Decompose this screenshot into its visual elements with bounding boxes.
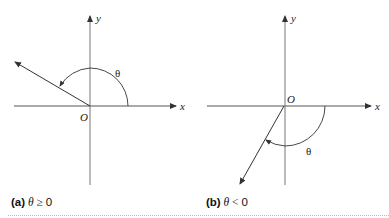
caption-expression-b: θ < 0 <box>224 196 248 208</box>
caption-value-b: 0 <box>241 196 247 208</box>
x-axis-label-a: x <box>179 100 185 112</box>
caption-tag-a: (a) <box>11 196 25 208</box>
bottom-divider <box>8 215 389 216</box>
caption-variable-b: θ <box>224 196 230 208</box>
caption-value-a: 0 <box>46 196 52 208</box>
y-axis-label-b: y <box>290 12 296 24</box>
terminal-ray-a <box>15 62 90 106</box>
origin-label-b: O <box>287 93 295 105</box>
y-axis-label-a: y <box>95 12 101 24</box>
origin-label-a: O <box>80 111 88 123</box>
angle-diagram: x y O θ x y O θ <box>0 0 389 218</box>
caption-variable-a: θ <box>28 196 34 208</box>
theta-label-b: θ <box>306 145 311 157</box>
theta-label-a: θ <box>115 67 120 79</box>
caption-tag-b: (b) <box>206 196 221 208</box>
x-axis-label-b: x <box>374 100 380 112</box>
caption-expression-a: θ ≥ 0 <box>28 196 52 208</box>
caption-a: (a) θ ≥ 0 <box>11 196 52 208</box>
angle-arc-b <box>266 106 325 146</box>
caption-relation-a: ≥ <box>36 196 42 208</box>
caption-relation-b: < <box>232 196 239 208</box>
panel-a: x y O θ <box>14 12 185 185</box>
panel-b: x y O θ <box>207 12 380 185</box>
caption-b: (b) θ < 0 <box>206 196 248 208</box>
